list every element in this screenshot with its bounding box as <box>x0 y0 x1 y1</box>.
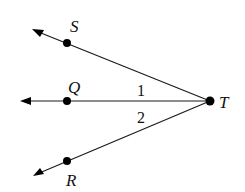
arrowhead-icon-S <box>32 29 44 37</box>
point-S <box>63 39 71 47</box>
label-Q: Q <box>68 78 80 97</box>
arrowhead-icon-Q <box>20 97 31 105</box>
angle-label-1: 1 <box>137 82 145 99</box>
ray-TR <box>37 101 210 174</box>
angle-label-2: 2 <box>137 109 145 126</box>
angle-diagram: S Q R T 1 2 <box>0 0 245 192</box>
point-Q <box>63 97 71 105</box>
point-T <box>206 97 215 106</box>
label-T: T <box>219 93 230 112</box>
ray-TS <box>36 31 210 101</box>
label-R: R <box>65 171 77 190</box>
point-R <box>63 157 71 165</box>
arrowhead-icon-R <box>33 168 44 176</box>
label-S: S <box>70 17 79 36</box>
